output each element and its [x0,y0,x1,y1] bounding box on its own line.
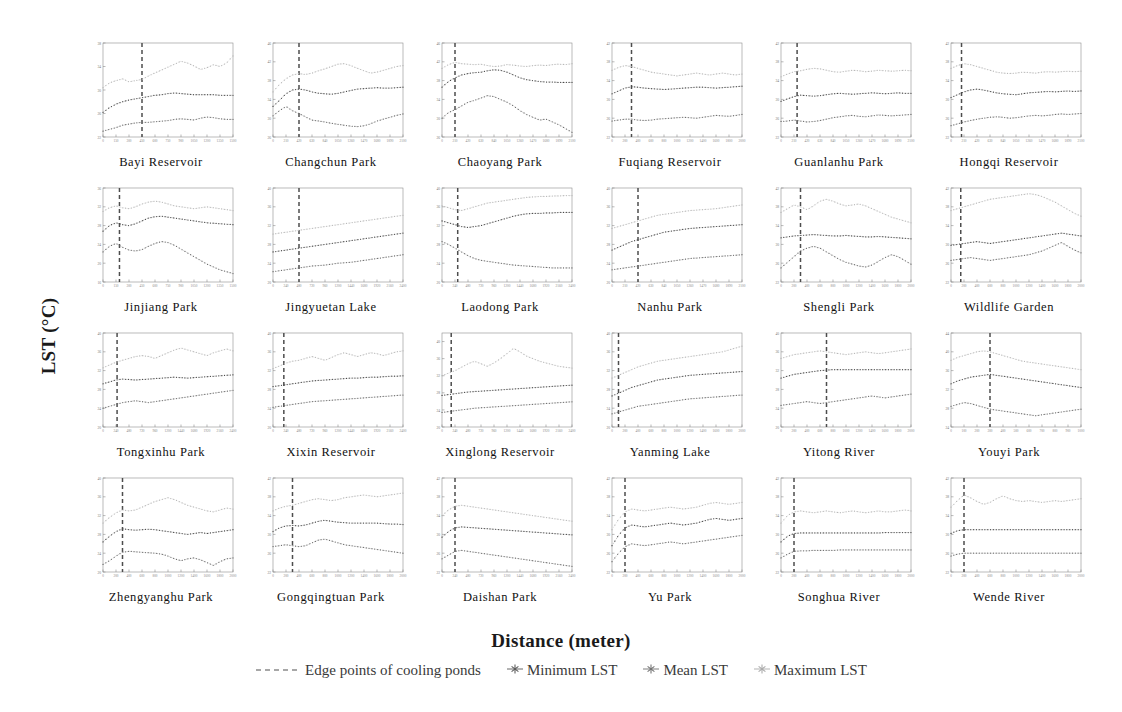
svg-text:630: 630 [648,284,653,288]
svg-text:38: 38 [775,205,779,209]
legend-item-label: Edge points of cooling ponds [305,663,481,678]
svg-text:1890: 1890 [556,139,563,143]
svg-text:200: 200 [622,574,627,578]
svg-text:34: 34 [775,224,779,228]
svg-text:0: 0 [780,284,782,288]
svg-text:34: 34 [436,98,440,102]
series-minimum-lst [950,402,1081,416]
svg-text:150: 150 [113,139,118,143]
svg-text:1050: 1050 [335,139,342,143]
svg-text:0: 0 [611,139,613,143]
svg-text:24: 24 [606,262,610,266]
svg-text:1050: 1050 [504,139,511,143]
subplot-title: Bayi Reservoir [85,155,237,170]
svg-text:1200: 1200 [856,284,863,288]
svg-text:210: 210 [452,139,457,143]
series-mean-lst [102,374,233,384]
series-minimum-lst [102,241,233,274]
svg-text:1800: 1800 [1065,284,1072,288]
svg-text:26: 26 [436,552,440,556]
svg-text:420: 420 [804,139,809,143]
svg-text:0: 0 [441,429,443,433]
plot-area: 2024283236400210420630840105012601470168… [594,183,746,295]
svg-text:210: 210 [791,139,796,143]
svg-text:1600: 1600 [882,429,889,433]
svg-text:0: 0 [780,429,782,433]
subplot-youyi-park: 2428323640440100200300400500600700800900… [933,328,1085,466]
series-mean-lst [611,371,742,397]
svg-text:1440: 1440 [178,429,185,433]
svg-text:630: 630 [817,139,822,143]
svg-text:1800: 1800 [895,574,902,578]
svg-text:240: 240 [113,429,118,433]
series-maximum-lst [780,68,911,78]
svg-text:1050: 1050 [1013,139,1020,143]
svg-text:800: 800 [1000,284,1005,288]
series-mean-lst [950,89,1081,99]
svg-text:200: 200 [283,574,288,578]
subplot-title: Fuqiang Reservoir [594,155,746,170]
svg-text:960: 960 [491,429,496,433]
plot-area: 2024283236400200400600800100012001400160… [85,473,237,585]
svg-text:800: 800 [830,574,835,578]
series-minimum-lst [272,106,403,127]
svg-text:38: 38 [945,205,949,209]
svg-text:400: 400 [126,574,131,578]
svg-text:2400: 2400 [230,429,237,433]
svg-text:500: 500 [1013,429,1018,433]
svg-text:1920: 1920 [543,429,550,433]
svg-text:1400: 1400 [361,574,368,578]
svg-text:38: 38 [267,79,271,83]
svg-text:36: 36 [97,350,101,354]
svg-text:1000: 1000 [335,574,342,578]
svg-text:200: 200 [791,574,796,578]
svg-text:700: 700 [1039,429,1044,433]
svg-text:2100: 2100 [569,139,576,143]
svg-text:1000: 1000 [1078,429,1085,433]
svg-text:1680: 1680 [361,284,368,288]
series-minimum-lst [780,393,911,406]
svg-text:1800: 1800 [895,429,902,433]
svg-text:1680: 1680 [1052,139,1059,143]
subplot-laodong-park: 2024283236400240480720960120014401680192… [424,183,576,321]
svg-text:34: 34 [945,79,949,83]
svg-text:1680: 1680 [191,429,198,433]
svg-text:1000: 1000 [843,429,850,433]
svg-text:750: 750 [165,139,170,143]
svg-text:40: 40 [606,332,610,336]
svg-text:30: 30 [606,98,610,102]
series-mean-lst [611,518,742,547]
subplot-jingyuetan-lake: 2024283236400240480720960120014401680192… [255,183,407,321]
svg-text:16: 16 [97,281,101,285]
y-axis-label: LST (°C) [36,236,62,436]
subplot-title: Nanhu Park [594,300,746,315]
svg-text:38: 38 [945,60,949,64]
series-mean-lst [272,233,403,253]
series-maximum-lst [102,55,233,88]
svg-text:1500: 1500 [230,284,237,288]
svg-text:24: 24 [267,262,271,266]
svg-text:2000: 2000 [400,574,407,578]
series-minimum-lst [102,390,233,409]
svg-text:2000: 2000 [908,429,915,433]
svg-text:720: 720 [478,284,483,288]
svg-text:1200: 1200 [856,574,863,578]
svg-text:1500: 1500 [230,139,237,143]
subplot-changchun-park: 2630343842460210420630840105012601470168… [255,38,407,176]
svg-text:36: 36 [775,350,779,354]
svg-text:1400: 1400 [869,284,876,288]
svg-text:36: 36 [606,350,610,354]
svg-text:32: 32 [97,514,101,518]
svg-text:800: 800 [661,574,666,578]
svg-text:24: 24 [267,407,271,411]
svg-text:240: 240 [283,429,288,433]
svg-text:30: 30 [775,243,779,247]
svg-text:420: 420 [296,139,301,143]
svg-text:1200: 1200 [1026,284,1033,288]
series-minimum-lst [950,242,1081,261]
plot-area: 2226303438015030045060075090010501200135… [85,38,237,150]
svg-text:40: 40 [267,332,271,336]
svg-text:32: 32 [606,369,610,373]
svg-text:900: 900 [178,284,183,288]
series-minimum-lst [272,394,403,407]
